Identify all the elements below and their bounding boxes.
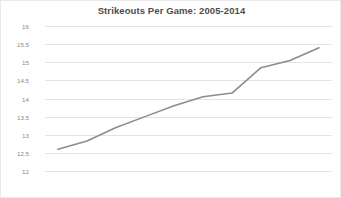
y-tick-label: 13.5	[7, 113, 29, 120]
y-tick-label: 13	[7, 131, 29, 138]
y-tick-label: 14	[7, 95, 29, 102]
data-series-line	[45, 26, 332, 171]
plot-area: 1615.51514.51413.51312.512 2005200620072…	[45, 26, 332, 171]
line-chart: Strikeouts Per Game: 2005-2014 1615.5151…	[0, 0, 341, 198]
y-tick-label: 12.5	[7, 149, 29, 156]
y-tick-label: 15.5	[7, 41, 29, 48]
y-tick-label: 15	[7, 59, 29, 66]
chart-title: Strikeouts Per Game: 2005-2014	[1, 5, 341, 16]
y-tick-label: 12	[7, 168, 29, 175]
gridline	[45, 171, 332, 172]
y-tick-label: 14.5	[7, 77, 29, 84]
y-tick-label: 16	[7, 23, 29, 30]
